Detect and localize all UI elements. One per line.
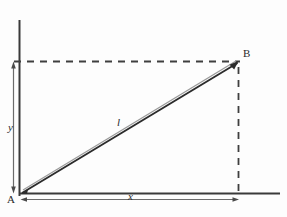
vector-length-label: l [117, 117, 120, 128]
vector-line-dark [22, 63, 238, 193]
vector-line-light [23, 61, 236, 190]
x-component-label: x [128, 191, 133, 202]
point-label-b: B [243, 48, 250, 59]
x-dimension-arrowhead-right [233, 197, 240, 202]
vector-diagram-figure: A B l x y [0, 0, 287, 217]
x-dimension-arrowhead-left [21, 197, 28, 202]
y-dimension-arrowhead-top [11, 62, 16, 69]
point-label-a: A [7, 194, 15, 205]
y-component-label: y [8, 122, 13, 133]
diagram-canvas [0, 0, 287, 217]
